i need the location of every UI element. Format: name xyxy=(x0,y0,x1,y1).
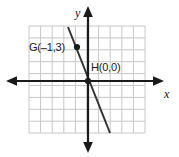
point-marker-h xyxy=(85,78,91,84)
y-axis-label: y xyxy=(75,7,80,19)
point-label-h: H(0,0) xyxy=(91,61,120,73)
coordinate-plane-figure: G(–1,3) H(0,0) y x xyxy=(0,0,179,157)
coordinate-plane-svg xyxy=(0,0,179,157)
x-axis-label: x xyxy=(164,88,169,100)
point-marker-g xyxy=(74,44,80,50)
x-axis-right-arrow-icon xyxy=(153,76,164,86)
x-axis-left-arrow-icon xyxy=(6,76,17,86)
point-label-g: G(–1,3) xyxy=(29,41,65,53)
y-axis-down-arrow-icon xyxy=(83,142,93,153)
y-axis-up-arrow-icon xyxy=(83,6,93,17)
